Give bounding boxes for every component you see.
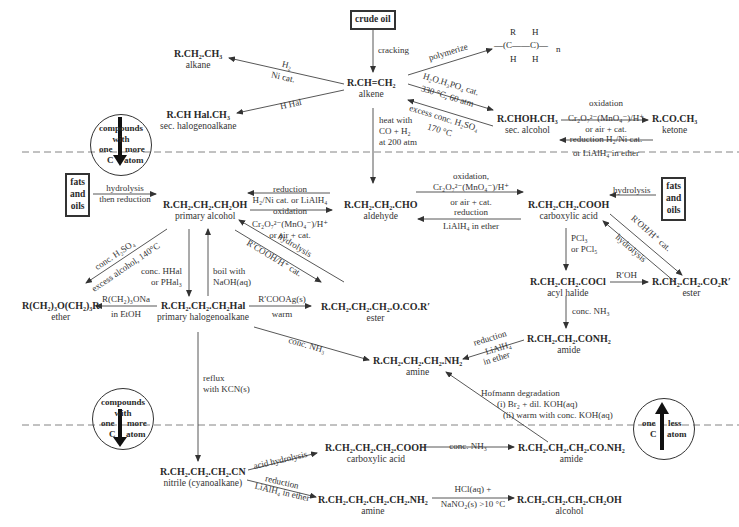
label-silver: R′COOAg(s) warm [252,294,312,320]
label-acid-ox-1: oxidation, [418,171,524,182]
circle-less-left2: C [650,430,657,439]
label-hydroformyl-1: heat with [379,115,417,126]
label-hofmann: Hofmann degradation (i) Br₂ + dil. KOH(a… [481,388,613,420]
amide-name: amide [527,345,611,356]
circle-mid-line1: compounds [96,398,150,407]
label-halogenate-2: or PHal₃ [141,277,182,288]
label-ald-red-2: H₂/Ni cat. or LiAlH₄ [248,195,332,206]
compound-sec-halogenoalkane: R.CH Hal.CH₃ sec. halogenoalkane [160,109,237,131]
acyl-halide-name: acyl halide [530,288,606,299]
ketone-name: ketone [652,125,697,136]
circle-less-right2: atom [667,430,687,439]
sec-halogenoalkane-formula: R.CH Hal.CH₃ [160,109,237,121]
label-kcn: reflux with KCN(s) [203,373,250,395]
crude-oil-box: crude oil [350,10,396,30]
compound-amine: R.CH₂.CH₂.CH₂.NH₂ amine [373,355,462,377]
polymer-h-bl: H [510,55,517,64]
circle-top-right2: atom [124,156,144,165]
long-amine-formula: R.CH₂.CH₂.CH₂.CH₂.NH₂ [318,494,428,506]
label-hofmann-1: Hofmann degradation [481,388,613,399]
compound-carboxylic-acid: R.CH₂.CH₂.COOH carboxylic acid [528,199,609,221]
label-ketone-red-2: or LiAlH₄ in ether [563,148,649,159]
circle-more-carbon-top: compounds with one more C atom [90,114,152,176]
amide-formula: R.CH₂.CH₂.CONH₂ [527,333,611,345]
carboxylic-acid-name: carboxylic acid [528,211,609,222]
label-hydroformyl-3: at 200 atm [379,137,417,148]
compound-ketone: R.CO.CH₃ ketone [652,113,697,135]
primary-halogenoalkane-name: primary halogenoalkane [157,312,249,323]
compound-ester-mid: R.CH₂.CH₂.CH₂.O.CO.R′ ester [321,301,430,323]
compound-long-amine: R.CH₂.CH₂.CH₂.CH₂.NH₂ amine [318,494,428,516]
label-cracking: cracking [378,45,409,56]
label-pcl-2: or PCl₅ [571,244,597,255]
nitrile-formula: R.CH₂.CH₂.CH₂.CN [160,466,246,478]
compound-alkane: R.CH₂.CH₃ alkane [174,48,222,70]
label-halogenate-1: conc. HHal [141,266,182,277]
compound-long-amide: R.CH₂.CH₂.CH₂.CO.NH₂ amide [518,442,625,464]
amine-name: amine [373,367,462,378]
aldehyde-formula: R.CH₂.CH₂.CHO [344,199,418,211]
compound-ether: R(CH₂)₃O(CH₂)₃R ether [22,300,100,322]
polymer-h-br: H [532,55,539,64]
label-alc-ox-2: Cr₂O₇²⁻(MnO₄⁻)/H⁺ [248,219,332,230]
label-ketone-ox-3: or air + cat. [563,124,649,135]
fats-left-2: and [70,189,85,201]
compound-long-acid: R.CH₂.CH₂.CH₂.COOH carboxylic acid [325,442,427,464]
label-diazo: HCl(aq) + NaNO₂(s) >10 °C [432,484,514,510]
label-fats-left-2: then reduction [93,194,157,205]
circle-mid-left: one [101,419,115,428]
long-amide-formula: R.CH₂.CH₂.CH₂.CO.NH₂ [518,442,625,454]
circle-top-left2: C [107,156,114,165]
circle-top-right: more [125,145,145,154]
long-alcohol-formula: R.CH₂.CH₂.CH₂.CH₂OH [517,494,622,506]
long-amide-name: amide [518,454,625,465]
label-naoh-2: NaOH(aq) [213,277,251,288]
label-fats-left-1: hydrolysis [93,183,157,194]
circle-mid-right: more [127,419,147,428]
circle-top-line2: with [94,135,148,144]
sec-alcohol-name: sec. alcohol [497,125,558,136]
label-diazo-2: NaNO₂(s) >10 °C [432,499,514,510]
label-kcn-2: with KCN(s) [203,384,250,395]
label-long-amide-nh3: conc. NH₃ [428,441,508,452]
label-hofmann-3: (ii) warm with conc. KOH(aq) [481,410,613,421]
circle-less-left: one [642,419,656,428]
ketone-formula: R.CO.CH₃ [652,113,697,125]
circle-more-carbon-bottom: compounds with one more C atom [92,388,154,450]
label-naoh-1: boil with [213,266,251,277]
compound-long-alcohol: R.CH₂.CH₂.CH₂.CH₂OH alcohol [517,494,622,516]
label-acyl-ester: R′OH [616,270,637,281]
label-acid-ox-2: Cr₂O₇²⁻(MnO₄⁻)/H⁺ [418,182,524,193]
label-ald-red: reduction H₂/Ni cat. or LiAlH₄ oxidation… [248,184,332,241]
sec-alcohol-formula: R.CHOH.CH₃ [497,113,558,125]
primary-alcohol-name: primary alcohol [163,211,247,222]
alkane-name: alkane [174,60,222,71]
fats-right-1: fats [666,181,681,193]
label-ketone-red-1: reduction H₂/Ni cat. [563,134,649,145]
circle-less-carbon: one less C atom [633,398,695,460]
aldehyde-name: aldehyde [344,211,418,222]
circle-top-left: one [99,145,113,154]
fats-left-1: fats [70,177,85,189]
label-williamson: R(CH₂)₃ONa in EtOH [96,294,156,320]
compound-ester-right: R.CH₂.CH₂.CO₂R′ ester [652,276,731,298]
sec-halogenoalkane-name: sec. halogenoalkane [160,121,237,132]
fats-oils-box-right: fats and oils [661,177,686,221]
label-hofmann-2: (i) Br₂ + dil. KOH(aq) [481,399,613,410]
alkene-formula: R.CH=CH₂ [347,77,395,89]
compound-amide: R.CH₂.CH₂.CONH₂ amide [527,333,611,355]
label-halogenate: conc. HHal or PHal₃ [141,266,182,288]
label-acid-ox: oxidation, Cr₂O₇²⁻(MnO₄⁻)/H⁺ or air + ca… [418,171,524,232]
fats-left-3: oils [70,201,85,213]
label-ketone-ox-1: oxidation [563,98,649,109]
label-ketone-ox: oxidation Cr₂O₇²⁻(MnO₄⁻)/H⁺ or air + cat… [563,98,649,159]
label-silver-1: R′COOAg(s) [252,294,312,305]
polymer-r: R [510,28,516,37]
label-williamson-2: in EtOH [96,309,156,320]
ester-mid-name: ester [321,313,430,324]
ester-right-name: ester [652,288,731,299]
label-silver-2: warm [252,309,312,320]
polymer-structure: R H —(C——C)— H H n [494,28,574,68]
fats-right-2: and [666,193,681,205]
ester-right-formula: R.CH₂.CH₂.CO₂R′ [652,276,731,288]
